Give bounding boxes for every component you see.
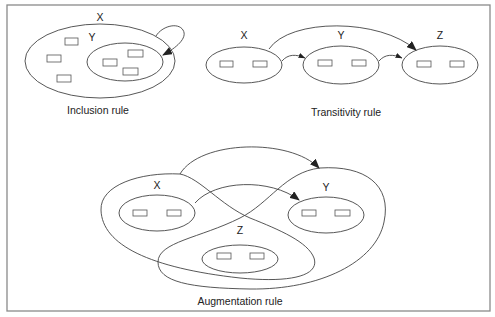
element-box <box>167 210 181 216</box>
arrow-xz-to-yz <box>180 147 319 174</box>
set-y-ellipse <box>303 46 379 84</box>
arrow-x-to-y <box>195 185 299 203</box>
inclusion-rule-panel: X Y Inclusion rule <box>25 11 184 116</box>
set-x-label: X <box>96 11 103 23</box>
element-box <box>220 61 233 67</box>
self-loop-arrow <box>156 26 184 55</box>
set-y-ellipse <box>288 197 364 233</box>
set-x-label: X <box>240 29 247 41</box>
diagram-figure: X Y Inclusion rule X Y Z Transitivity ru… <box>0 0 495 317</box>
element-box <box>217 253 231 259</box>
set-x-ellipse <box>206 47 282 83</box>
set-x-ellipse <box>119 195 195 231</box>
set-z-ellipse <box>202 245 278 273</box>
element-box <box>47 55 61 62</box>
element-box <box>253 61 267 67</box>
element-box <box>318 60 332 66</box>
set-x-label: X <box>153 179 160 191</box>
element-box <box>128 50 143 57</box>
element-box <box>450 61 464 67</box>
augmentation-rule-panel: X Y Z Augmentation rule <box>101 147 385 307</box>
element-box <box>103 59 117 66</box>
element-box <box>302 210 316 216</box>
transitivity-caption: Transitivity rule <box>311 106 381 118</box>
diagram-canvas: X Y Inclusion rule X Y Z Transitivity ru… <box>0 0 495 317</box>
transitivity-rule-panel: X Y Z Transitivity rule <box>206 26 478 118</box>
augmentation-caption: Augmentation rule <box>197 295 282 307</box>
element-box <box>133 210 147 216</box>
set-z-label: Z <box>437 29 444 41</box>
set-z-label: Z <box>237 224 244 236</box>
set-y-label: Y <box>337 29 344 41</box>
set-y-label: Y <box>322 181 329 193</box>
set-y-label: Y <box>88 31 95 43</box>
element-box <box>417 61 431 67</box>
element-box <box>250 253 264 259</box>
element-box <box>65 38 78 45</box>
inclusion-caption: Inclusion rule <box>67 104 129 116</box>
figure-frame <box>7 5 490 311</box>
arrow-x-to-y <box>282 55 305 61</box>
element-box <box>123 68 138 75</box>
element-box <box>57 75 71 82</box>
set-z-ellipse <box>402 46 478 84</box>
element-box <box>335 210 350 216</box>
arrow-y-to-z <box>379 55 402 61</box>
element-box <box>352 60 366 66</box>
